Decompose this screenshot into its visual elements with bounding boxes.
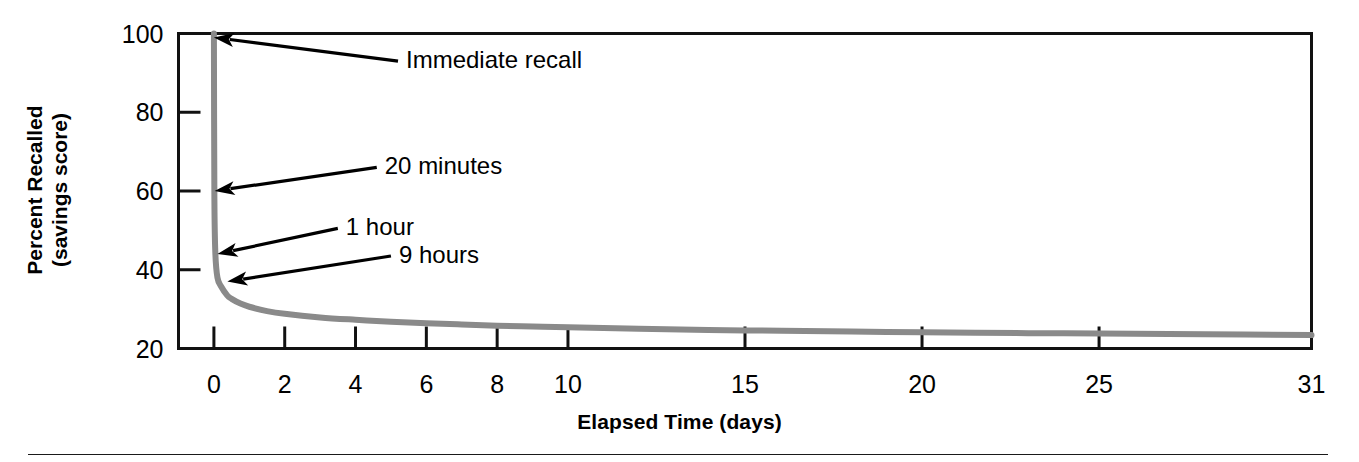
y-axis-title-line2: (savings score) (48, 105, 73, 274)
y-axis-ticks (179, 34, 201, 270)
x-tick-label-2: 2 (245, 372, 325, 397)
annotation-label-9-hours: 9 hours (399, 243, 479, 267)
footer-divider (28, 454, 1328, 455)
x-tick-label-0: 0 (174, 372, 254, 397)
annotation-leader-line-0 (230, 39, 398, 61)
x-tick-label-4: 4 (316, 372, 396, 397)
x-tick-label-31: 31 (1272, 372, 1352, 397)
y-tick-label-20: 20 (44, 337, 164, 362)
x-tick-label-25: 25 (1059, 372, 1139, 397)
y-tick-label-100: 100 (44, 22, 164, 47)
y-axis-title: Percent Recalled (savings score) (18, 60, 78, 320)
x-tick-label-15: 15 (705, 372, 785, 397)
x-tick-label-20: 20 (882, 372, 962, 397)
annotation-leader-line-1 (230, 167, 376, 188)
annotation-label-immediate-recall: Immediate recall (406, 48, 582, 72)
x-tick-label-8: 8 (457, 372, 537, 397)
annotation-label-20-minutes: 20 minutes (385, 154, 502, 178)
figure-container: 20406080100 024681015202531 Percent Reca… (0, 0, 1359, 462)
plot-frame (179, 34, 1312, 349)
annotation-leader-line-2 (233, 228, 338, 250)
x-tick-label-6: 6 (386, 372, 466, 397)
annotation-leader-line-3 (243, 256, 391, 279)
y-axis-title-line1: Percent Recalled (23, 105, 48, 274)
x-tick-label-10: 10 (528, 372, 608, 397)
x-axis-title: Elapsed Time (days) (0, 411, 1359, 432)
annotation-arrows (214, 33, 398, 285)
annotation-label-1-hour: 1 hour (346, 215, 414, 239)
series-line (214, 34, 1312, 336)
data-series-curve (214, 34, 1312, 336)
plot-border (179, 34, 1312, 349)
